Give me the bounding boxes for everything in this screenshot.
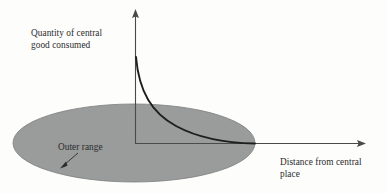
x-axis-label: Distance from central place (280, 157, 385, 180)
outer-range-label: Outer range (58, 142, 138, 154)
y-axis-label: Quantity of central good consumed (31, 28, 141, 51)
central-place-theory-diagram: Quantity of central good consumed Distan… (0, 0, 387, 193)
